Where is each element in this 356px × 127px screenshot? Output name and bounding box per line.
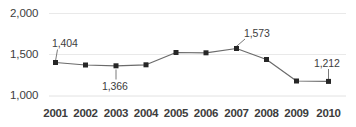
- data-point-2006: [204, 50, 209, 55]
- x-axis-tick-2009: 2009: [282, 107, 312, 119]
- line-chart: 2,000 1,500 1,000 2001 2002 2003 2004 20…: [0, 0, 356, 127]
- x-axis-tick-2004: 2004: [131, 107, 161, 119]
- data-point-2008: [264, 57, 269, 62]
- x-axis-tick-2007: 2007: [222, 107, 252, 119]
- x-axis-tick-2006: 2006: [191, 107, 221, 119]
- data-point-2009: [294, 79, 299, 84]
- x-axis-tick-2010: 2010: [314, 107, 344, 119]
- y-axis-tick-2000: 2,000: [10, 7, 38, 19]
- data-point-2002: [83, 63, 88, 68]
- x-axis-tick-2003: 2003: [101, 107, 131, 119]
- y-axis-tick-1000: 1,000: [10, 89, 38, 101]
- data-series-line: [56, 49, 329, 82]
- data-label-2001: 1,404: [52, 37, 78, 49]
- data-point-2001: [53, 60, 58, 65]
- data-label-2007: 1,573: [244, 27, 270, 39]
- data-point-2010: [326, 79, 331, 84]
- x-axis-tick-2002: 2002: [71, 107, 101, 119]
- x-axis-tick-2005: 2005: [161, 107, 191, 119]
- data-point-2005: [174, 50, 179, 55]
- data-point-2003: [114, 63, 119, 68]
- data-label-2010: 1,212: [314, 57, 340, 69]
- y-axis-tick-1500: 1,500: [10, 48, 38, 60]
- x-axis-tick-2008: 2008: [252, 107, 282, 119]
- data-point-2004: [144, 62, 149, 67]
- x-axis-tick-2001: 2001: [41, 107, 71, 119]
- gridlines: [49, 14, 346, 97]
- data-label-2003: 1,366: [102, 80, 128, 92]
- data-point-2007: [234, 46, 239, 51]
